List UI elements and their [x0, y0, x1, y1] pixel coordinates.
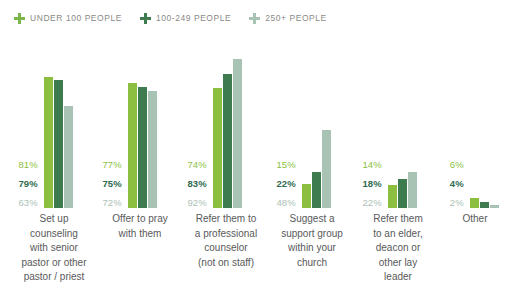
legend-item-250-plus: 250+ PEOPLE [249, 13, 327, 24]
value-label: 77% [88, 155, 122, 174]
bar[interactable] [398, 179, 407, 208]
plus-icon [14, 13, 25, 24]
bar[interactable] [223, 74, 232, 208]
bar[interactable] [480, 202, 489, 208]
bar[interactable] [138, 87, 147, 209]
bar-cluster [470, 38, 499, 208]
bar-cluster [213, 38, 242, 208]
bar[interactable] [388, 185, 397, 208]
value-label: 22% [348, 193, 382, 212]
value-labels: 81%79%63% [4, 155, 38, 212]
value-labels: 14%18%22% [348, 155, 382, 212]
value-label: 74% [173, 155, 207, 174]
bar-cluster [44, 38, 73, 208]
category-label: Other [444, 212, 506, 227]
value-label: 14% [348, 155, 382, 174]
legend-label: 250+ PEOPLE [265, 13, 327, 23]
bar[interactable] [64, 106, 73, 208]
bar[interactable] [408, 172, 417, 208]
legend-item-under-100: UNDER 100 PEOPLE [14, 13, 122, 24]
bar[interactable] [490, 205, 499, 208]
chart-page: UNDER 100 PEOPLE 100-249 PEOPLE 250+ PEO… [0, 0, 514, 304]
category-label: Refer themto an elder,deacon orother lay… [356, 212, 440, 285]
bar[interactable] [128, 83, 137, 208]
bar[interactable] [322, 130, 331, 208]
plus-icon [140, 13, 151, 24]
bar[interactable] [54, 80, 63, 208]
value-label: 92% [173, 193, 207, 212]
value-labels: 74%83%92% [173, 155, 207, 212]
value-labels: 15%22%48% [262, 155, 296, 212]
bar[interactable] [312, 172, 321, 208]
value-label: 81% [4, 155, 38, 174]
value-label: 22% [262, 174, 296, 193]
value-label: 15% [262, 155, 296, 174]
bar[interactable] [302, 184, 311, 208]
plot-area: 81%79%63%77%75%72%74%83%92%15%22%48%14%1… [0, 38, 514, 208]
category-label: Set upcounselingwith seniorpastor or oth… [8, 212, 100, 285]
value-label: 79% [4, 174, 38, 193]
bar[interactable] [470, 198, 479, 208]
legend-label: 100-249 PEOPLE [156, 13, 231, 23]
value-label: 72% [88, 193, 122, 212]
value-label: 83% [173, 174, 207, 193]
value-label: 48% [262, 193, 296, 212]
value-label: 6% [430, 155, 464, 174]
legend-item-100-249: 100-249 PEOPLE [140, 13, 231, 24]
chart-legend: UNDER 100 PEOPLE 100-249 PEOPLE 250+ PEO… [14, 10, 327, 26]
bar[interactable] [44, 77, 53, 208]
bar[interactable] [148, 91, 157, 208]
value-labels: 77%75%72% [88, 155, 122, 212]
bar-cluster [302, 38, 331, 208]
category-label: Suggest asupport groupwithin yourchurch [268, 212, 356, 270]
category-label: Offer to praywith them [96, 212, 184, 241]
bar[interactable] [213, 88, 222, 208]
value-label: 75% [88, 174, 122, 193]
value-label: 63% [4, 193, 38, 212]
legend-label: UNDER 100 PEOPLE [30, 13, 122, 23]
bar-cluster [128, 38, 157, 208]
value-label: 2% [430, 193, 464, 212]
plus-icon [249, 13, 260, 24]
bar-cluster [388, 38, 417, 208]
bar[interactable] [233, 59, 242, 208]
value-labels: 6%4%2% [430, 155, 464, 212]
value-label: 4% [430, 174, 464, 193]
category-labels: Set upcounselingwith seniorpastor or oth… [0, 212, 514, 304]
category-label: Refer them toa professionalcounselor(not… [178, 212, 274, 270]
value-label: 18% [348, 174, 382, 193]
